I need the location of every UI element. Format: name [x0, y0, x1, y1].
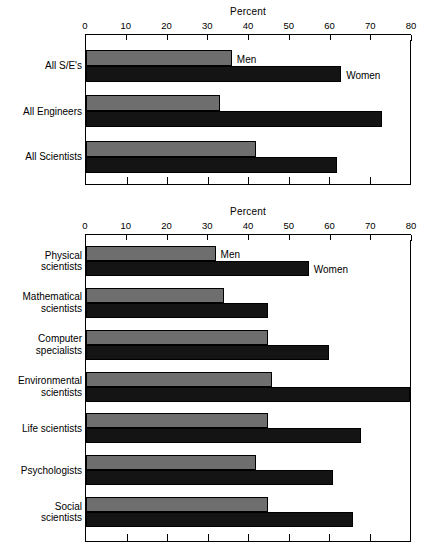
x-tick-label: 30 — [202, 220, 213, 231]
category-label: Social scientists — [0, 501, 82, 524]
bar-group — [86, 330, 410, 360]
series-label-women: Women — [346, 70, 380, 81]
category-label: Environmental scientists — [0, 375, 82, 398]
category-label: All S/E's — [0, 60, 82, 72]
bar-group — [86, 95, 410, 127]
x-tick-label: 50 — [283, 20, 294, 31]
bar-women — [86, 512, 353, 527]
bar-men — [86, 50, 232, 66]
bottom-tick-row — [86, 177, 410, 184]
x-tick-mark — [127, 534, 128, 541]
bottom-tick-row — [86, 534, 410, 541]
axis-title-top: Percent — [85, 6, 411, 17]
x-tick-label: 60 — [324, 20, 335, 31]
series-label-men: Men — [237, 54, 256, 65]
plot-area-bottom: MenWomen — [85, 240, 411, 542]
bar-men — [86, 288, 224, 303]
x-tick-mark — [248, 177, 249, 184]
category-label: Mathematical scientists — [0, 291, 82, 314]
x-tick-label: 80 — [406, 20, 417, 31]
category-label: Computer specialists — [0, 333, 82, 356]
x-tick-mark — [370, 534, 371, 541]
bar-group: MenWomen — [86, 246, 410, 276]
category-label: Physical scientists — [0, 250, 82, 273]
x-tick-label: 70 — [365, 20, 376, 31]
bar-men — [86, 497, 268, 512]
category-label: Life scientists — [0, 423, 82, 435]
bar-men — [86, 330, 268, 345]
x-tick-mark — [208, 534, 209, 541]
bar-women — [86, 111, 382, 127]
x-tick-mark — [167, 177, 168, 184]
x-tick-label: 40 — [243, 220, 254, 231]
axis-title-bottom: Percent — [85, 206, 411, 217]
x-tick-mark — [370, 177, 371, 184]
x-tick-mark — [167, 534, 168, 541]
x-tick-mark — [411, 35, 412, 41]
bar-women — [86, 303, 268, 318]
plot-area-top: MenWomen — [85, 40, 411, 185]
bar-group: MenWomen — [86, 50, 410, 82]
x-tick-label: 10 — [120, 220, 131, 231]
bar-men — [86, 246, 216, 261]
bar-group — [86, 288, 410, 318]
x-tick-label: 50 — [283, 220, 294, 231]
bar-women — [86, 345, 329, 360]
x-tick-mark — [127, 177, 128, 184]
x-tick-labels-bottom: 01020304050607080 — [85, 220, 411, 233]
x-tick-label: 0 — [82, 20, 87, 31]
x-tick-label: 40 — [243, 20, 254, 31]
bar-group — [86, 413, 410, 443]
x-tick-labels-top: 01020304050607080 — [85, 20, 411, 33]
bar-men — [86, 141, 256, 157]
bar-group — [86, 497, 410, 527]
x-tick-mark — [329, 534, 330, 541]
x-tick-label: 20 — [161, 220, 172, 231]
bar-group — [86, 455, 410, 485]
x-tick-label: 30 — [202, 20, 213, 31]
bar-men — [86, 95, 220, 111]
x-tick-mark — [289, 177, 290, 184]
bar-women — [86, 261, 309, 276]
x-tick-label: 80 — [406, 220, 417, 231]
category-label: All Scientists — [0, 151, 82, 163]
x-tick-label: 0 — [82, 220, 87, 231]
bar-men — [86, 455, 256, 470]
x-tick-label: 10 — [120, 20, 131, 31]
x-tick-mark — [411, 235, 412, 241]
x-tick-mark — [248, 534, 249, 541]
bar-women — [86, 470, 333, 485]
bar-women — [86, 428, 361, 443]
series-label-men: Men — [221, 249, 240, 260]
bar-women — [86, 157, 337, 173]
figure-root: Percent 01020304050607080 MenWomen All S… — [0, 0, 435, 549]
bar-men — [86, 413, 268, 428]
bar-men — [86, 372, 272, 387]
chart-bottom: Percent 01020304050607080 MenWomen Physi… — [0, 200, 435, 545]
series-label-women: Women — [314, 264, 348, 275]
x-tick-label: 70 — [365, 220, 376, 231]
x-tick-mark — [289, 534, 290, 541]
category-label: Psychologists — [0, 465, 82, 477]
bar-group — [86, 372, 410, 402]
bar-women — [86, 66, 341, 82]
x-tick-mark — [329, 177, 330, 184]
x-tick-label: 60 — [324, 220, 335, 231]
bar-women — [86, 387, 410, 402]
x-tick-label: 20 — [161, 20, 172, 31]
bar-group — [86, 141, 410, 173]
x-tick-mark — [208, 177, 209, 184]
category-label: All Engineers — [0, 106, 82, 118]
chart-top: Percent 01020304050607080 MenWomen All S… — [0, 6, 435, 196]
